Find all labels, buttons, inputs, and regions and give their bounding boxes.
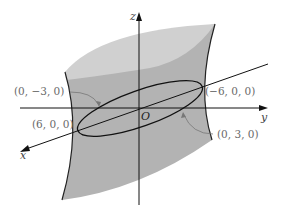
z-axis-label: z [129, 10, 136, 23]
point-label-neg-y: (0, −3, 0) [14, 85, 64, 97]
point-label-pos-y: (0, 3, 0) [217, 128, 259, 140]
z-axis-arrow-icon [136, 12, 142, 21]
y-axis-label: y [260, 111, 268, 124]
x-axis-label: x [20, 149, 27, 162]
origin-label: O [141, 110, 150, 123]
hyperboloid-diagram: z y x O (0, −3, 0) (−6, 0, 0) (6, 0, 0) … [0, 0, 284, 214]
point-label-pos-x: (6, 0, 0) [32, 118, 74, 130]
point-label-neg-x: (−6, 0, 0) [205, 85, 255, 97]
